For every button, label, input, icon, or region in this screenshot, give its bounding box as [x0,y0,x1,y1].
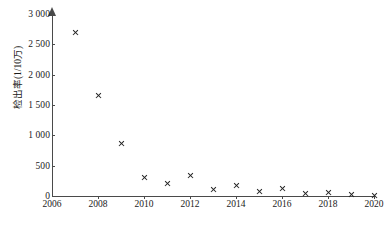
y-tick-text: 2 500 [4,39,50,49]
y-tick-label: 1 000 [0,130,50,140]
data-point-marker [95,92,102,99]
data-point-marker [210,186,217,193]
y-tick-text: 1 000 [4,130,50,140]
x-tick-mark [190,196,191,199]
data-point-marker [164,180,171,187]
y-tick-label: 3 000 [0,9,50,19]
data-point-marker [325,189,332,196]
data-point-marker [302,190,309,197]
x-tick-text: 2006 [32,199,72,210]
data-point-marker [72,29,79,36]
data-point-marker [279,185,286,192]
y-tick-text: 500 [4,161,50,171]
y-tick-label: 500 [0,161,50,171]
y-tick-mark [52,166,55,167]
x-tick-label: 2016 [262,199,302,210]
y-tick-text: 2 000 [4,70,50,80]
x-tick-text: 2014 [216,199,256,210]
y-tick-mark [52,135,55,136]
y-tick-mark [52,14,55,15]
data-point-marker [141,174,148,181]
data-point-marker [348,191,355,198]
x-tick-text: 2016 [262,199,302,210]
x-tick-mark [236,196,237,199]
x-tick-text: 2020 [354,199,386,210]
data-point-marker [256,188,263,195]
x-tick-label: 2012 [170,199,210,210]
x-tick-mark [282,196,283,199]
x-tick-label: 2020 [354,199,386,210]
data-point-marker [118,140,125,147]
x-tick-mark [98,196,99,199]
y-tick-text: 1 500 [4,100,50,110]
y-tick-label: 2 500 [0,39,50,49]
scatter-chart: 检出率(1/10万) 05001 0001 5002 0002 5003 000… [0,0,386,227]
data-point-marker [187,172,194,179]
x-tick-mark [144,196,145,199]
x-tick-text: 2018 [308,199,348,210]
y-tick-label: 1 500 [0,100,50,110]
x-tick-label: 2006 [32,199,72,210]
x-tick-text: 2010 [124,199,164,210]
x-tick-label: 2014 [216,199,256,210]
y-tick-mark [52,75,55,76]
data-point-marker [371,192,378,199]
x-tick-label: 2018 [308,199,348,210]
y-tick-text: 3 000 [4,9,50,19]
x-tick-label: 2008 [78,199,118,210]
y-tick-mark [52,44,55,45]
x-tick-label: 2010 [124,199,164,210]
y-tick-mark [52,105,55,106]
data-point-marker [233,182,240,189]
x-tick-text: 2012 [170,199,210,210]
y-tick-label: 2 000 [0,70,50,80]
x-tick-text: 2008 [78,199,118,210]
